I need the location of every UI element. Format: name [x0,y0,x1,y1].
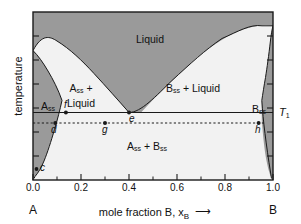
rl2-b: B [166,82,173,94]
x-axis-title: mole fraction B, xB⟶ [60,205,250,221]
x-tick-label-0: 0.0 [18,182,48,193]
point-label-h: h [255,124,261,135]
endpoint-label-a: A [23,203,43,217]
rl5-b-sub: ss [160,145,167,152]
x-tick-label-4: 0.8 [210,182,240,193]
isotherm-label-t1-main: T [279,106,286,118]
y-axis-title: temperature [12,31,24,141]
region-label-a-ss: Ass [34,100,62,115]
point-label-f: f [64,99,67,110]
endpoint-label-b: B [263,203,283,217]
region-label-liquid-text: Liquid [136,33,164,45]
isotherm-label-t1-sub: 1 [286,112,290,119]
point-label-d: d [51,124,57,135]
x-tick-label-5: 1.0 [258,182,288,193]
x-tick-label-2: 0.4 [114,182,144,193]
x-axis-title-sub: B [184,212,189,221]
region-label-a-ss-plus-b-ss: Ass + Bss [112,140,182,155]
rl5-tail: + B [141,140,160,152]
region-label-a-ss-plus-liquid-line1: Ass + [53,82,109,97]
rl3-a: A [41,100,48,112]
point-label-e: e [129,113,135,124]
rl2-b-sub: ss [173,87,180,94]
point-label-c: c [40,162,45,173]
rl5-a: A [127,140,134,152]
rl5-a-sub: ss [134,145,141,152]
region-label-b-ss-plus-liquid: Bss + Liquid [148,82,238,97]
phase-diagram-figure: temperature 0.0 0.2 0.4 0.6 0.8 1.0 mole… [0,0,301,224]
point-marker-f [64,111,68,115]
x-axis-title-main: mole fraction B, x [99,206,184,218]
rl4-b-sub: ss [259,108,266,115]
rl1-a-tail: + [83,82,92,94]
x-axis-arrow-icon: ⟶ [195,205,211,218]
region-label-liquid: Liquid [120,33,180,45]
rl4-b: B [252,103,259,115]
x-tick-label-3: 0.6 [162,182,192,193]
point-marker-c [35,167,39,171]
rl3-a-sub: ss [48,105,55,112]
region-label-b-ss: Bss [246,103,272,118]
isotherm-label-t1: T1 [279,106,290,119]
rl2-b-tail: + Liquid [180,82,220,94]
point-label-g: g [102,124,108,135]
x-tick-label-1: 0.2 [66,182,96,193]
